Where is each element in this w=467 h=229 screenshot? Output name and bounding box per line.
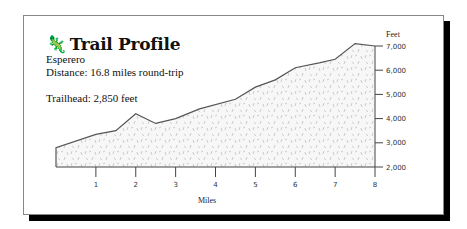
y-tick-label: 2,000 — [386, 164, 406, 172]
y-tick-label: 4,000 — [386, 115, 406, 123]
x-axis-label: Miles — [198, 196, 216, 205]
x-tick-label: 4 — [213, 181, 218, 189]
x-tick-label: 2 — [134, 181, 138, 189]
y-tick-label: 6,000 — [386, 67, 406, 75]
x-tick-label: 3 — [173, 181, 177, 189]
y-tick-label: 3,000 — [386, 139, 406, 147]
x-tick-label: 8 — [373, 181, 377, 189]
x-tick-label: 1 — [94, 181, 98, 189]
x-tick-label: 7 — [333, 181, 337, 189]
x-tick-label: 5 — [253, 181, 257, 189]
y-axis-label: Feet — [386, 30, 401, 39]
y-tick-label: 5,000 — [386, 91, 406, 99]
y-tick-label: 7,000 — [386, 43, 406, 51]
elevation-chart: 123456782,0003,0004,0005,0006,0007,000 M… — [0, 0, 467, 229]
area-plot — [56, 44, 375, 167]
elevation-area — [56, 44, 375, 167]
x-tick-label: 6 — [293, 181, 298, 189]
